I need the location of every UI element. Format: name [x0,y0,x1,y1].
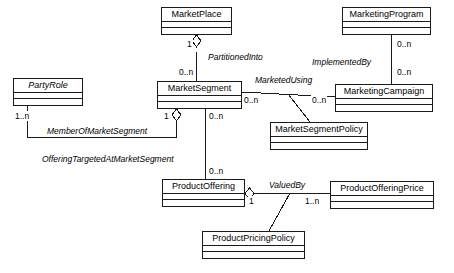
multiplicity-marketplace-to-marketsegment-source: 1 [186,39,193,49]
class-operations-productofferingprice [331,202,433,208]
class-name-marketingcampaign: MarketingCampaign [336,85,432,99]
multiplicity-productoffering-to-price-target: 1..n [304,196,320,206]
class-name-marketplace: MarketPlace [162,8,231,22]
class-box-marketingcampaign[interactable]: MarketingCampaign [335,84,433,112]
class-box-productofferingprice[interactable]: ProductOfferingPrice [330,181,434,209]
association-label-member-of-market-segment: MemberOfMarketSegment [46,126,148,136]
class-name-productoffering: ProductOffering [163,180,244,194]
line-product-pricing-policy [269,193,290,231]
association-label-offering-targeted-at-market-segment: OfferingTargetedAtMarketSegment [41,154,175,164]
aggregation-diamond-member-of-market-segment [172,109,181,121]
multiplicity-marketingprogram-to-campaign-target: 0..n [396,67,412,77]
class-name-marketsegment: MarketSegment [158,82,241,96]
class-box-marketingprogram[interactable]: MarketingProgram [342,7,431,35]
multiplicity-partyrole-to-marketsegment-target: 1 [163,111,170,121]
class-box-productoffering[interactable]: ProductOffering [162,179,245,207]
multiplicity-marketsegment-to-productoffering-target: 0..n [208,166,224,176]
multiplicity-marketsegment-to-productoffering-source: 0..n [208,111,224,121]
multiplicity-productoffering-to-price-source: 1 [248,196,255,206]
aggregation-diamond-partitioned-into [192,35,201,47]
class-box-partyrole[interactable]: PartyRole [13,78,83,106]
class-name-marketingprogram: MarketingProgram [343,8,430,22]
class-operations-marketingcampaign [336,105,432,111]
class-box-marketplace[interactable]: MarketPlace [161,7,232,35]
line-market-segment-policy [288,94,310,122]
class-box-marketsegmentpolicy[interactable]: MarketSegmentPolicy [270,122,368,150]
class-name-marketsegmentpolicy: MarketSegmentPolicy [271,123,367,137]
association-label-implemented-by: ImplementedBy [311,57,372,67]
multiplicity-marketsegment-to-campaign-source: 0..n [243,95,259,105]
class-operations-marketsegmentpolicy [271,143,367,149]
class-operations-productoffering [163,200,244,206]
class-name-partyrole: PartyRole [14,79,82,93]
class-box-productpricingpolicy[interactable]: ProductPricingPolicy [202,231,305,259]
class-operations-marketsegment [158,102,241,108]
class-name-productofferingprice: ProductOfferingPrice [331,182,433,196]
class-operations-marketingprogram [343,28,430,34]
class-name-productpricingpolicy: ProductPricingPolicy [203,232,304,246]
class-box-marketsegment[interactable]: MarketSegment [157,81,242,109]
multiplicity-marketingprogram-to-campaign-source: 0..n [396,39,412,49]
class-operations-partyrole [14,99,82,105]
multiplicity-partyrole-to-marketsegment-source: 1..n [14,111,30,121]
association-label-marketed-using: MarketedUsing [254,75,313,85]
association-label-valued-by: ValuedBy [268,180,306,190]
class-operations-marketplace [162,28,231,34]
association-label-partitioned-into: PartitionedInto [207,52,264,62]
multiplicity-marketplace-to-marketsegment-target: 0..n [178,67,194,77]
uml-class-diagram: MarketPlace MarketingProgram PartyRole M… [0,0,454,273]
multiplicity-marketsegment-to-campaign-target: 0..n [311,95,327,105]
class-operations-productpricingpolicy [203,252,304,258]
